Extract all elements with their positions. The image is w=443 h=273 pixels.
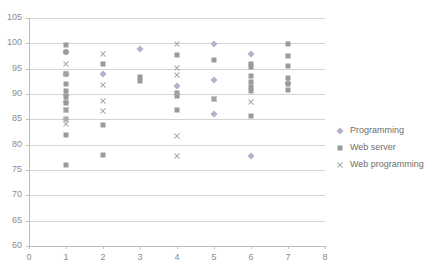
data-point — [210, 111, 217, 118]
y-axis-tick-label: 85 — [0, 114, 22, 123]
legend-label: Programming — [346, 125, 404, 136]
data-point — [284, 79, 291, 86]
gridline-y — [29, 94, 325, 95]
data-point — [247, 50, 254, 57]
plot-area — [29, 18, 325, 246]
data-point — [62, 91, 69, 98]
legend-label: Web server — [346, 142, 396, 153]
data-point — [63, 121, 70, 128]
data-point — [286, 76, 291, 81]
data-point — [138, 78, 143, 83]
data-point — [174, 72, 181, 79]
y-axis-tick-label: 80 — [0, 140, 22, 149]
data-point — [64, 81, 69, 86]
y-axis-tick-label: 65 — [0, 216, 22, 225]
scatter-chart: Programming Web server Web programming 6… — [0, 0, 443, 273]
data-point — [63, 60, 70, 67]
tick-x — [66, 246, 67, 249]
legend-marker-cross-icon — [334, 159, 346, 171]
tick-x — [177, 246, 178, 249]
data-point — [175, 52, 180, 57]
data-point — [210, 41, 217, 48]
data-point — [174, 153, 181, 160]
tick-x — [325, 246, 326, 249]
y-axis-tick-label: 105 — [0, 13, 22, 22]
data-point — [62, 49, 69, 56]
data-point — [100, 97, 107, 104]
x-axis-tick-label: 4 — [157, 253, 197, 262]
data-point — [62, 98, 69, 105]
x-axis-tick-label: 0 — [9, 253, 49, 262]
legend-item: Web server — [334, 139, 442, 156]
y-axis-tick-label: 100 — [0, 38, 22, 47]
legend-item: Web programming — [334, 156, 442, 173]
legend-label: Web programming — [346, 159, 424, 170]
data-point — [247, 152, 254, 159]
legend-item: Programming — [334, 122, 442, 139]
data-point — [286, 54, 291, 59]
data-point — [64, 100, 69, 105]
data-point — [249, 85, 254, 90]
data-point — [210, 76, 217, 83]
data-point — [212, 97, 217, 102]
data-point — [286, 82, 291, 87]
y-axis-tick-label: 70 — [0, 190, 22, 199]
x-axis-tick-label: 8 — [305, 253, 345, 262]
data-point — [212, 58, 217, 63]
y-axis-tick-label: 90 — [0, 89, 22, 98]
y-axis-tick-label: 75 — [0, 165, 22, 174]
data-point — [62, 70, 69, 77]
data-point — [63, 71, 70, 78]
gridline-y — [29, 119, 325, 120]
gridline-y — [29, 221, 325, 222]
data-point — [63, 106, 70, 113]
gridline-y — [29, 145, 325, 146]
data-point — [100, 81, 107, 88]
y-axis-line — [29, 18, 30, 246]
data-point — [101, 62, 106, 67]
data-point — [64, 133, 69, 138]
data-point — [173, 83, 180, 90]
data-point — [100, 107, 107, 114]
data-point — [249, 113, 254, 118]
x-axis-tick-label: 5 — [194, 253, 234, 262]
gridline-y — [29, 69, 325, 70]
data-point — [174, 132, 181, 139]
gridline-y — [29, 18, 325, 19]
data-point — [136, 46, 143, 53]
x-axis-tick-label: 7 — [268, 253, 308, 262]
y-axis-tick-label: 60 — [0, 241, 22, 250]
data-point — [64, 50, 69, 55]
data-point — [249, 88, 254, 93]
tick-x — [251, 246, 252, 249]
chart-legend: Programming Web server Web programming — [334, 122, 442, 173]
data-point — [100, 51, 107, 58]
data-point — [99, 70, 106, 77]
data-point — [64, 163, 69, 168]
x-axis-tick-label: 1 — [46, 253, 86, 262]
data-point — [248, 98, 255, 105]
legend-marker-diamond-icon — [334, 125, 346, 137]
data-point — [64, 72, 69, 77]
data-point — [249, 80, 254, 85]
tick-x — [288, 246, 289, 249]
y-axis-tick-label: 95 — [0, 64, 22, 73]
data-point — [101, 122, 106, 127]
legend-marker-square-icon — [334, 142, 346, 154]
data-point — [249, 73, 254, 78]
data-point — [138, 74, 143, 79]
gridline-y — [29, 195, 325, 196]
data-point — [286, 88, 291, 93]
tick-x — [214, 246, 215, 249]
x-axis-tick-label: 2 — [83, 253, 123, 262]
data-point — [64, 107, 69, 112]
data-point — [101, 153, 106, 158]
x-axis-tick-label: 6 — [231, 253, 271, 262]
tick-x — [29, 246, 30, 249]
data-point — [175, 108, 180, 113]
data-point — [286, 64, 291, 69]
x-axis-tick-label: 3 — [120, 253, 160, 262]
tick-x — [103, 246, 104, 249]
data-point — [211, 96, 218, 103]
gridline-y — [29, 43, 325, 44]
